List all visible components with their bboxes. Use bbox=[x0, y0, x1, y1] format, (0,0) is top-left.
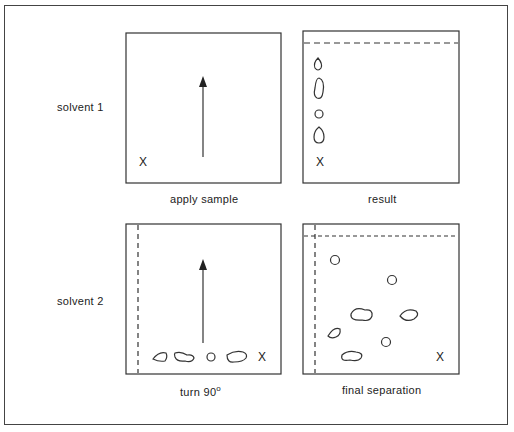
caption-turn-text: turn 90 bbox=[180, 386, 216, 398]
diagram-graphics bbox=[0, 0, 514, 432]
caption-result: result bbox=[368, 193, 397, 205]
spot-d bbox=[227, 351, 247, 362]
panel-result bbox=[303, 31, 459, 183]
spot-4 bbox=[314, 127, 324, 143]
origin-mark-final: X bbox=[436, 350, 444, 364]
arrowhead-2 bbox=[199, 259, 207, 270]
origin-mark-turn: X bbox=[258, 350, 266, 364]
spot-2 bbox=[314, 78, 323, 98]
spot-f5 bbox=[328, 328, 340, 337]
spot-b bbox=[175, 352, 195, 361]
spot-f3 bbox=[351, 309, 372, 321]
caption-apply-sample: apply sample bbox=[170, 193, 238, 205]
spot-c bbox=[207, 353, 215, 361]
arrowhead-1 bbox=[199, 76, 207, 87]
spot-a bbox=[153, 353, 167, 362]
spot-f7 bbox=[342, 351, 362, 360]
spot-1 bbox=[314, 58, 321, 70]
spot-3 bbox=[315, 110, 323, 118]
origin-mark-apply: X bbox=[139, 155, 147, 169]
spot-f4 bbox=[400, 310, 418, 321]
spot-f1 bbox=[331, 256, 340, 265]
spot-f6 bbox=[382, 338, 391, 347]
caption-turn-90: turn 90o bbox=[180, 384, 221, 398]
origin-mark-result: X bbox=[316, 155, 324, 169]
degree-symbol: o bbox=[216, 384, 221, 393]
caption-final-separation: final separation bbox=[342, 384, 421, 396]
spot-f2 bbox=[388, 276, 397, 285]
